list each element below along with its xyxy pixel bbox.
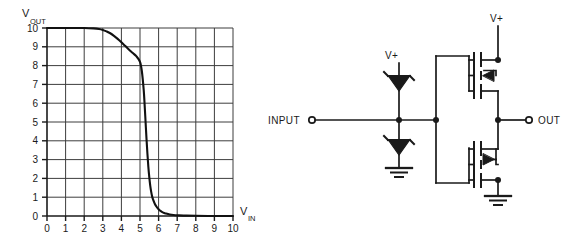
x-tick-label: 6 (156, 223, 162, 234)
x-axis-title-main: V (240, 205, 248, 217)
y-axis-title-subscript: OUT (30, 17, 46, 26)
transfer-characteristic-chart: 012345678910 012345678910 V OUT V IN (0, 0, 275, 240)
pull-down-nmos (469, 120, 501, 196)
y-axis-tick-labels: 012345678910 (27, 23, 39, 222)
output-terminal-node (526, 117, 532, 123)
x-tick-label: 1 (63, 223, 69, 234)
circuit-svg: INPUT V+ (262, 0, 567, 240)
y-axis-title: V OUT (22, 7, 46, 26)
x-tick-label: 7 (174, 223, 180, 234)
supply-label-left: V+ (385, 50, 398, 61)
supply-label-right: V+ (490, 13, 503, 24)
lower-clamp-diode (384, 120, 414, 168)
x-axis-title: V IN (240, 205, 256, 223)
y-tick-label: 2 (32, 173, 38, 184)
internal-gate-block (436, 56, 469, 183)
x-tick-label: 0 (44, 223, 50, 234)
y-axis-title-main: V (22, 7, 30, 19)
y-tick-label: 4 (32, 135, 38, 146)
x-tick-label: 4 (119, 223, 125, 234)
x-tick-label: 10 (227, 223, 239, 234)
x-tick-label: 5 (137, 223, 143, 234)
y-tick-label: 8 (32, 60, 38, 71)
y-tick-label: 6 (32, 98, 38, 109)
x-tick-label: 9 (212, 223, 218, 234)
circuit-schematic: INPUT V+ (262, 0, 567, 240)
x-axis-title-subscript: IN (248, 214, 256, 223)
y-tick-label: 5 (32, 117, 38, 128)
output-terminal-label: OUT (538, 115, 560, 126)
y-tick-label: 1 (32, 192, 38, 203)
y-tick-label: 3 (32, 154, 38, 165)
output-ground-symbol (485, 196, 511, 205)
y-tick-label: 9 (32, 41, 38, 52)
block-input-junction-dot (433, 117, 439, 123)
x-tick-label: 8 (193, 223, 199, 234)
chart-svg: 012345678910 012345678910 V OUT V IN (0, 0, 275, 240)
pull-up-pmos (469, 53, 498, 120)
upper-clamp-diode (384, 63, 414, 120)
x-tick-label: 2 (81, 223, 87, 234)
x-axis-tick-labels: 012345678910 (44, 223, 239, 234)
input-terminal-label: INPUT (268, 115, 300, 126)
y-tick-label: 0 (32, 211, 38, 222)
figure-root: 012345678910 012345678910 V OUT V IN INP… (0, 0, 567, 240)
x-tick-label: 3 (100, 223, 106, 234)
input-ground-symbol (386, 168, 412, 177)
y-tick-label: 7 (32, 79, 38, 90)
